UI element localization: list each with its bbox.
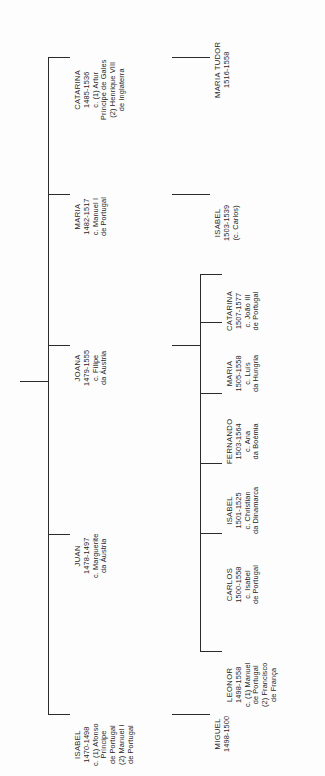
person-leonor-1498: LEONOR 1498-1558 c. (1) Manuel de Portug…	[226, 663, 279, 707]
person-carlos-1500: CARLOS 1500-1558 c. Isabel de Portugal	[226, 565, 261, 604]
person-spouse: da Hungria	[252, 355, 261, 392]
connector-joana-to-bracket	[172, 345, 201, 346]
person-catarina-1485: CATARINA 1485-1536 c. (1) Artur Príncipe…	[74, 60, 127, 120]
person-maria-tudor-1516: MARIA TUDOR 1516-1558	[214, 42, 232, 98]
person-dates: 1498-1500	[223, 716, 232, 752]
person-maria-1482: MARIA 1482-1517 c. Manuel I de Portugal	[74, 197, 109, 236]
connector-to-leonor-1498	[200, 651, 222, 652]
person-spouse: de França	[270, 663, 279, 707]
person-spouse: de Inglaterra	[118, 60, 127, 120]
connector-to-maria-1505	[200, 322, 222, 323]
spine-generation1	[48, 57, 49, 714]
connector-catarina-to-maria-tudor	[172, 57, 210, 58]
person-fernando-1503: FERNANDO 1503-1564 c. Ana da Boémia	[226, 419, 261, 464]
connector-to-isabel-1470	[48, 714, 70, 715]
person-catarina-1507: CATARINA 1507-1577 c. João III de Portug…	[226, 291, 261, 331]
genealogy-diagram: CATARINA 1485-1536 c. (1) Artur Príncipe…	[0, 0, 325, 776]
person-joana-1479: JOANA 1479-1555 c. Filipe da Áustria	[74, 350, 109, 386]
connector-to-maria-1482	[48, 194, 70, 195]
person-spouse: de Portugal	[252, 565, 261, 604]
person-spouse: da Áustria	[100, 350, 109, 386]
person-spouse: da Dinamarca	[252, 487, 261, 534]
person-dates: 1516-1558	[223, 42, 232, 98]
connector-to-catarina-1507	[200, 274, 222, 275]
connector-to-fernando-1503	[200, 393, 222, 394]
person-isabel-1501: ISABEL 1501-1525 c. Christian da Dinamar…	[226, 487, 261, 534]
connector-to-isabel-1501	[200, 463, 222, 464]
person-spouse: da Áustria	[100, 534, 109, 578]
connector-to-juan-1478	[48, 534, 70, 535]
person-spouse: da Boémia	[252, 419, 261, 464]
person-maria-1505: MARIA 1505-1558 c. Luís da Hungria	[226, 355, 261, 392]
person-spouse: de Portugal	[100, 197, 109, 236]
connector-to-carlos-1500	[200, 533, 222, 534]
person-spouse: (c. Carlos)	[232, 205, 241, 241]
person-isabel-1503: ISABEL 1503-1539 (c. Carlos)	[214, 205, 240, 241]
person-spouse: de Portugal	[252, 291, 261, 331]
connector-isabel-to-miguel	[172, 714, 210, 715]
parent-feeder-line	[20, 381, 49, 382]
person-isabel-1470: ISABEL 1470-1498 c. (1) Afonso Príncipe …	[74, 723, 135, 766]
person-juan-1478: JUAN 1478-1497 c. Marguerite da Áustria	[74, 534, 109, 578]
person-spouse: de Portugal	[127, 723, 136, 766]
connector-to-catarina-1485	[48, 57, 70, 58]
connector-maria-to-isabel-1503	[172, 194, 210, 195]
person-miguel-1498: MIGUEL 1498-1500	[214, 716, 232, 752]
connector-to-joana-1479	[48, 345, 70, 346]
